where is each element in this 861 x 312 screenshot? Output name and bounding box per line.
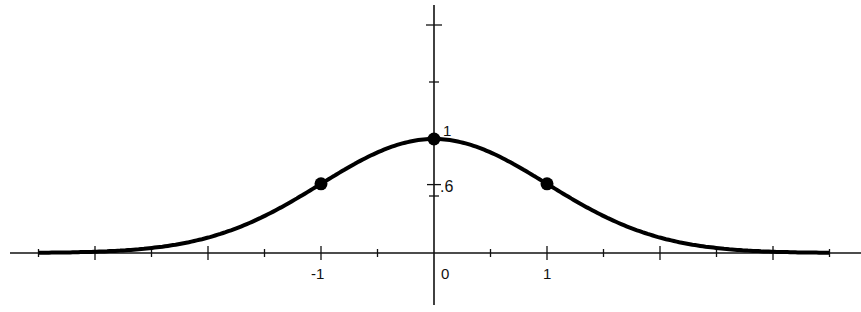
y-tick-label-1: 1 — [443, 123, 451, 138]
x-tick-label-neg1: -1 — [311, 266, 324, 281]
data-point — [428, 133, 441, 146]
y-tick-label-0-6: .6 — [440, 179, 453, 195]
x-tick-label-1: 1 — [543, 266, 551, 281]
bell-curve-chart — [0, 0, 861, 312]
x-tick-label-0: 0 — [441, 266, 449, 281]
data-point — [541, 177, 554, 190]
data-point — [315, 177, 328, 190]
y-axis — [426, 5, 442, 305]
